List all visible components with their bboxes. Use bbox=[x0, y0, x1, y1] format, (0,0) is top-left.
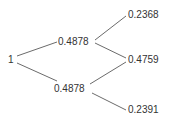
upper-level1-node-label: 0.4878 bbox=[58, 36, 89, 48]
edge-root-to-lower bbox=[17, 63, 57, 81]
top-level2-node-label: 0.2368 bbox=[128, 9, 159, 21]
edge-lower-to-bottom bbox=[92, 93, 126, 110]
middle-level2-node-label: 0.4759 bbox=[128, 54, 159, 66]
lower-level1-node-label: 0.4878 bbox=[54, 83, 85, 95]
edge-upper-to-middle bbox=[95, 43, 126, 58]
probability-tree-diagram: 1 0.4878 0.4878 0.2368 0.4759 0.2391 bbox=[0, 0, 171, 123]
edge-lower-to-middle bbox=[90, 62, 126, 84]
edge-upper-to-top bbox=[95, 16, 126, 40]
bottom-level2-node-label: 0.2391 bbox=[128, 104, 159, 116]
edge-root-to-upper bbox=[17, 42, 57, 56]
root-node-label: 1 bbox=[8, 54, 14, 66]
